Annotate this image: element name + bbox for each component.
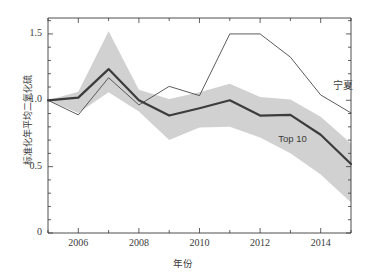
series-annotation-ningxia: 宁夏 xyxy=(333,77,353,92)
x-tick-label: 2012 xyxy=(246,237,274,248)
x-tick-label: 2014 xyxy=(307,237,335,248)
y-tick-label: 1.0 xyxy=(16,93,42,104)
x-tick-label: 2006 xyxy=(64,237,92,248)
x-tick-label: 2010 xyxy=(186,237,214,248)
x-axis-label: 年份 xyxy=(0,256,366,270)
x-tick-label: 2008 xyxy=(125,237,153,248)
chart-plot-area xyxy=(0,0,366,276)
uncertainty-band xyxy=(48,31,351,202)
chart-figure: 标准化年平均二氧化硫 年份 20062008201020122014 00.51… xyxy=(0,0,366,276)
y-axis-label: 标准化年平均二氧化硫 xyxy=(21,45,34,195)
y-tick-label: 0 xyxy=(16,226,42,237)
series-annotation-top10: Top 10 xyxy=(278,133,307,144)
y-tick-label: 0.5 xyxy=(16,160,42,171)
y-tick-label: 1.5 xyxy=(16,27,42,38)
